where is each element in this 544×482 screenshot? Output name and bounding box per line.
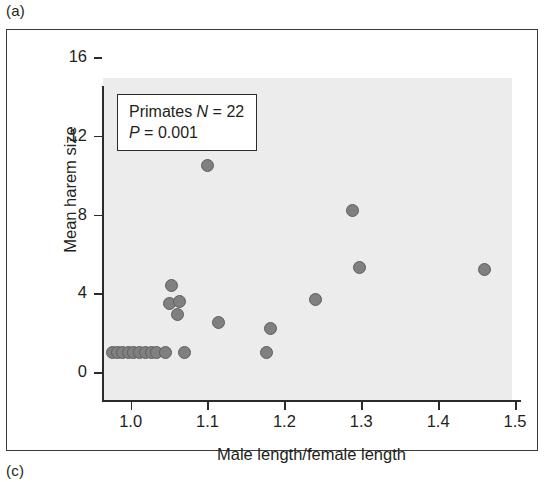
figure-frame: 0481216 1.01.11.21.31.41.5 Mean harem si… [6,29,538,451]
x-ticklabel-1.4: 1.4 [408,412,468,431]
annotation-prefix: Primates [129,103,197,120]
x-tick-1.2 [284,402,286,410]
data-point [260,346,273,359]
annotation-line-1: Primates N = 22 [129,101,244,122]
data-point [178,346,191,359]
x-tick-1.4 [438,402,440,410]
x-ticklabel-1.1: 1.1 [177,412,237,431]
y-tick-12 [94,136,102,138]
data-point [212,316,225,329]
x-tick-1.1 [207,402,209,410]
x-ticklabel-1.0: 1.0 [101,412,161,431]
data-point [165,279,178,292]
x-ticklabel-1.2: 1.2 [254,412,314,431]
annotation-p-value: = 0.001 [140,124,198,141]
panel-label-c: (c) [6,462,24,479]
y-axis-line [102,86,104,402]
annotation-n-value: = 22 [208,103,244,120]
y-ticklabel-0: 0 [17,362,87,381]
y-axis-title: Mean harem size [61,75,80,305]
x-ticklabel-1.3: 1.3 [331,412,391,431]
y-tick-16 [94,57,102,59]
statistics-annotation-box: Primates N = 22 P = 0.001 [117,94,257,151]
data-point [346,204,359,217]
x-ticklabel-1.5: 1.5 [485,412,544,431]
annotation-line-2: P = 0.001 [129,122,244,143]
annotation-n-symbol: N [197,103,209,120]
data-point [309,293,322,306]
x-tick-1.5 [515,402,517,410]
data-point [201,159,214,172]
y-tick-0 [94,372,102,374]
x-axis-line [102,400,521,402]
data-point [478,263,491,276]
x-tick-1.0 [131,402,133,410]
y-tick-4 [94,293,102,295]
panel-label-a: (a) [6,2,25,19]
y-tick-8 [94,215,102,217]
annotation-p-symbol: P [129,124,140,141]
data-point [173,295,186,308]
x-tick-1.3 [361,402,363,410]
y-ticklabel-16: 16 [17,47,87,66]
x-axis-title: Male length/female length [102,445,521,464]
